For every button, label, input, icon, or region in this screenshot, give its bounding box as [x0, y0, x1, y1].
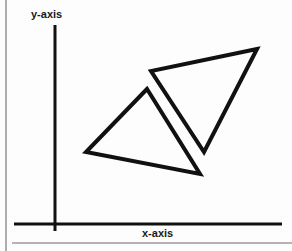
- x-axis-label: x-axis: [142, 228, 173, 239]
- y-axis-label: y-axis: [31, 9, 62, 20]
- figure-container: y-axis x-axis: [0, 0, 292, 251]
- triangle-lower-left: [86, 89, 200, 174]
- geometry-diagram-canvas: [0, 0, 292, 251]
- triangle-upper-right: [151, 49, 257, 152]
